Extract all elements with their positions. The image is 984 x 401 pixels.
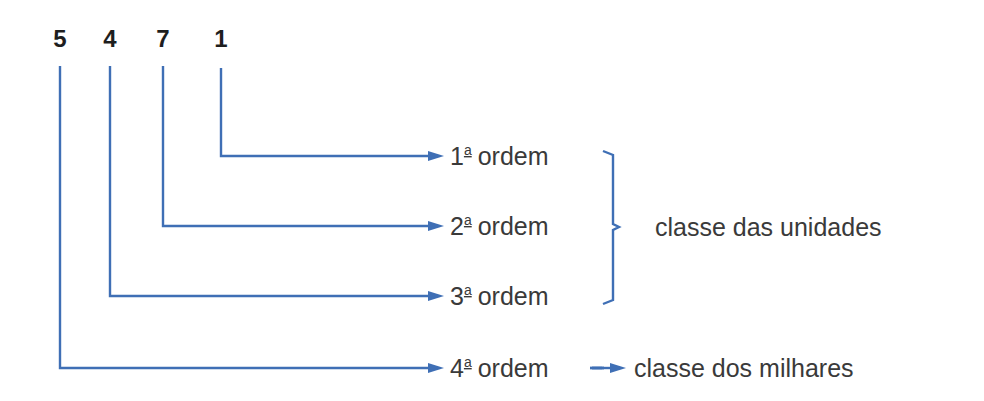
connector-thousands xyxy=(60,66,428,368)
arrowhead-icon xyxy=(428,291,444,301)
digit-hundreds: 4 xyxy=(103,25,117,52)
svg-text:1aordem: 1aordem xyxy=(450,142,549,170)
digit-units: 1 xyxy=(214,25,227,52)
svg-text:4aordem: 4aordem xyxy=(450,354,549,382)
connector-hundreds xyxy=(110,66,428,296)
order-label-1: 1aordem xyxy=(450,142,549,170)
order-label-3: 3aordem xyxy=(450,282,549,310)
arrowhead-icon xyxy=(428,221,444,231)
place-value-diagram: 5 4 7 1 1aordem 2aordem 3aordem 4aordem … xyxy=(0,0,984,401)
arrowhead-icon xyxy=(610,363,626,373)
arrowhead-icon xyxy=(428,151,444,161)
svg-text:2aordem: 2aordem xyxy=(450,212,549,240)
class-thousands-label: classe dos milhares xyxy=(634,354,854,382)
digit-thousands: 5 xyxy=(53,25,66,52)
connector-tens xyxy=(163,66,428,226)
class-units-label: classe das unidades xyxy=(655,213,882,241)
svg-text:3aordem: 3aordem xyxy=(450,282,549,310)
arrowhead-icon xyxy=(428,363,444,373)
brace-icon xyxy=(603,151,619,304)
order-label-4: 4aordem xyxy=(450,354,549,382)
connector-units xyxy=(221,68,428,156)
digit-tens: 7 xyxy=(156,25,169,52)
order-label-2: 2aordem xyxy=(450,212,549,240)
